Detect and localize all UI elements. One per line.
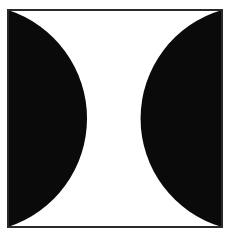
figure-ground-illustration	[0, 0, 234, 237]
illusion-canvas: Black and white figure-ground illusion: …	[0, 0, 234, 237]
